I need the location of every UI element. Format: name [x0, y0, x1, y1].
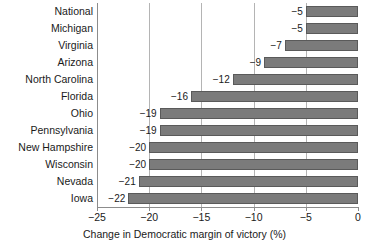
bar: [149, 142, 358, 153]
y-axis-tick-label: Arizona: [57, 54, 93, 71]
bar: [306, 6, 358, 17]
bar-value-label: −19: [140, 105, 160, 122]
bar-row: −21: [97, 173, 358, 190]
y-axis-category-labels: NationalMichiganVirginiaArizonaNorth Car…: [0, 3, 93, 207]
y-axis-tick-label: Pennsylvania: [31, 122, 93, 139]
bar: [160, 125, 358, 136]
bar-value-label: −22: [108, 190, 128, 207]
chart-figure: NationalMichiganVirginiaArizonaNorth Car…: [0, 0, 369, 246]
bar-row: −19: [97, 105, 358, 122]
bar-value-label: −20: [129, 156, 149, 173]
x-axis-tick-label: −15: [192, 211, 210, 223]
bar: [128, 193, 358, 204]
bar: [264, 57, 358, 68]
bar-value-label: −5: [291, 20, 305, 37]
bar: [285, 40, 358, 51]
x-axis-tick-label: −20: [140, 211, 158, 223]
bar: [306, 23, 358, 34]
bar-value-label: −12: [213, 71, 233, 88]
bar-row: −20: [97, 139, 358, 156]
bar-row: −16: [97, 88, 358, 105]
bar-row: −12: [97, 71, 358, 88]
y-axis-tick-label: North Carolina: [25, 71, 93, 88]
bar: [149, 159, 358, 170]
bar-row: −5: [97, 3, 358, 20]
bar: [191, 91, 358, 102]
plot-area: −5−5−7−9−12−16−19−19−20−20−21−22: [97, 3, 358, 207]
bar-row: −9: [97, 54, 358, 71]
y-axis-tick-label: Virginia: [58, 37, 93, 54]
bar-value-label: −7: [271, 37, 285, 54]
bar: [233, 74, 358, 85]
bar-value-label: −5: [291, 3, 305, 20]
x-axis-label: Change in Democratic margin of victory (…: [0, 228, 369, 240]
y-axis-tick-label: Nevada: [57, 173, 93, 190]
bar: [139, 176, 358, 187]
bar-value-label: −16: [171, 88, 191, 105]
bar-value-label: −9: [250, 54, 264, 71]
y-axis-tick-label: Florida: [61, 88, 93, 105]
y-axis-tick-label: Ohio: [71, 105, 93, 122]
x-axis-tick-label: −10: [245, 211, 263, 223]
bar-row: −22: [97, 190, 358, 207]
x-axis-tick-label: 0: [355, 211, 361, 223]
y-axis-tick-label: Michigan: [51, 20, 93, 37]
x-axis-line: [97, 207, 359, 208]
bar-value-label: −19: [140, 122, 160, 139]
x-axis-tick-label: −5: [300, 211, 312, 223]
bar-row: −7: [97, 37, 358, 54]
bar-value-label: −21: [119, 173, 139, 190]
bar: [160, 108, 358, 119]
bar-value-label: −20: [129, 139, 149, 156]
y-axis-tick-label: Wisconsin: [45, 156, 93, 173]
bar-row: −19: [97, 122, 358, 139]
x-axis-tick-label: −25: [88, 211, 106, 223]
bar-row: −20: [97, 156, 358, 173]
y-axis-tick-label: National: [54, 3, 93, 20]
y-axis-tick-label: New Hampshire: [18, 139, 93, 156]
bar-row: −5: [97, 20, 358, 37]
y-axis-tick-label: Iowa: [71, 190, 93, 207]
